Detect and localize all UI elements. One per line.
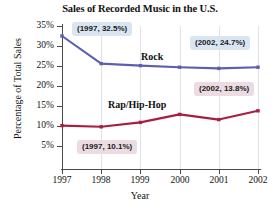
annotation-2002-rock: (2002, 24.7%) [190,36,250,50]
annotation-1997-rap: (1997, 10.1%) [77,140,137,154]
data-point-marker [139,121,142,124]
data-point-marker [139,64,142,67]
data-point-marker [100,62,103,65]
data-point-marker [100,125,103,128]
data-point-marker [60,124,63,127]
chart-container: Sales of Recorded Music in the U.S. Perc… [0,0,280,209]
series-label-rock: Rock [141,51,163,62]
annotation-1997-rock: (1997, 32.5%) [72,22,132,36]
data-point-marker [217,67,220,70]
series-label-rap: Rap/Hip-Hop [108,99,166,110]
data-point-marker [256,66,259,69]
data-point-marker [256,109,259,112]
data-point-marker [60,34,63,37]
series-path [62,111,258,127]
series-line-rock [60,109,259,128]
annotation-2002-rap: (2002, 13.8%) [194,82,254,96]
data-point-marker [178,66,181,69]
data-point-marker [178,113,181,116]
data-point-marker [217,118,220,121]
